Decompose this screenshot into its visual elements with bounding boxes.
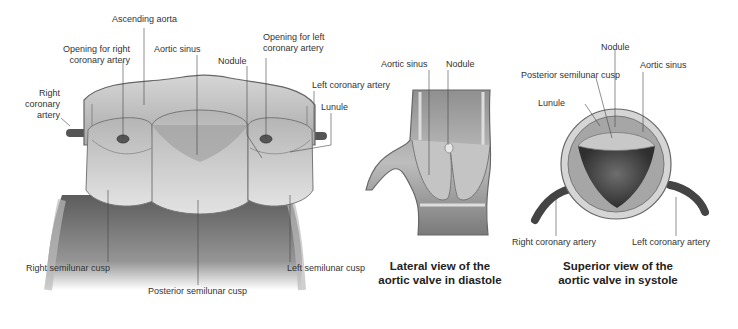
caption-lateral-view: Lateral view of the aortic valve in dias… xyxy=(370,259,510,287)
caption-line: aortic valve in diastole xyxy=(370,273,510,287)
label-aortic-sinus: Aortic sinus xyxy=(154,44,201,55)
label-right-semilunar-cusp: Right semilunar cusp xyxy=(26,263,110,274)
label-line: Opening for left xyxy=(263,32,325,43)
superior-valve-view xyxy=(535,109,705,220)
label-opening-left-coronary: Opening for left coronary artery xyxy=(263,32,325,54)
lateral-valve-view xyxy=(366,90,491,235)
label-nodule: Nodule xyxy=(218,56,247,67)
label-opening-right-coronary: Opening for right coronary artery xyxy=(50,44,130,66)
label-line: coronary xyxy=(20,99,60,110)
label-superior-aortic-sinus: Aortic sinus xyxy=(640,60,687,71)
label-line: Right xyxy=(20,88,60,99)
label-line: Opening for right xyxy=(50,44,130,55)
lateral-nodule xyxy=(445,143,453,153)
label-right-coronary-artery: Right coronary artery xyxy=(20,88,60,121)
caption-line: aortic valve in systole xyxy=(548,273,688,287)
label-lateral-aortic-sinus: Aortic sinus xyxy=(381,59,428,70)
caption-line: Superior view of the xyxy=(548,259,688,273)
label-ascending-aorta: Ascending aorta xyxy=(112,14,177,25)
label-line: coronary artery xyxy=(50,55,130,66)
label-left-semilunar-cusp: Left semilunar cusp xyxy=(287,263,365,274)
label-line: coronary artery xyxy=(263,43,325,54)
label-lateral-nodule: Nodule xyxy=(446,59,475,70)
label-superior-posterior-cusp: Posterior semilunar cusp xyxy=(521,70,620,81)
left-coronary-vessel xyxy=(670,185,705,212)
label-posterior-semilunar-cusp: Posterior semilunar cusp xyxy=(148,286,247,297)
main-valve-view xyxy=(45,75,327,290)
left-cusp xyxy=(248,118,313,206)
caption-superior-view: Superior view of the aortic valve in sys… xyxy=(548,259,688,287)
label-superior-nodule: Nodule xyxy=(601,42,630,53)
label-line: artery xyxy=(20,110,60,121)
label-superior-left-coronary: Left coronary artery xyxy=(632,237,710,248)
label-superior-right-coronary: Right coronary artery xyxy=(512,237,596,248)
right-cusp xyxy=(86,118,155,206)
label-lunule: Lunule xyxy=(321,102,348,113)
label-superior-lunule: Lunule xyxy=(538,98,565,109)
caption-line: Lateral view of the xyxy=(370,259,510,273)
label-left-coronary-artery: Left coronary artery xyxy=(312,80,390,91)
